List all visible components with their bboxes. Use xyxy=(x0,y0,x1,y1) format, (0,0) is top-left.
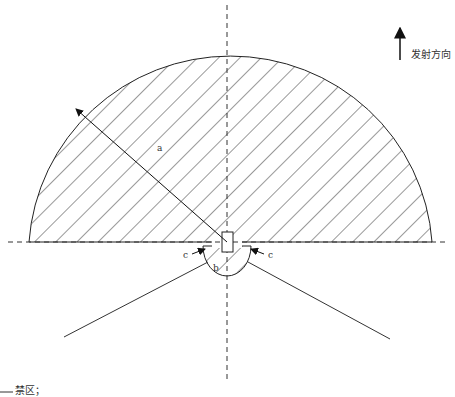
label-b: b xyxy=(213,264,219,273)
gap-arrow-right xyxy=(251,249,264,254)
launcher-box xyxy=(222,232,233,252)
hazard-zone-diagram xyxy=(0,0,455,397)
launch-direction-label: 发射方向 xyxy=(411,50,451,60)
label-c-right: c xyxy=(268,251,273,260)
label-c-left: c xyxy=(183,251,188,260)
legend-forbidden-zone-label: 禁区； xyxy=(15,386,45,396)
exhaust-line-left xyxy=(64,262,208,337)
exhaust-line-right xyxy=(248,262,390,339)
outer-forbidden-zone xyxy=(29,56,432,242)
label-a: a xyxy=(157,144,162,153)
